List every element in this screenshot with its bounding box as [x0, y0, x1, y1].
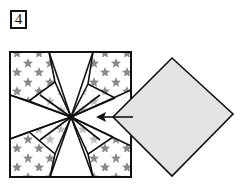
folding-diagram	[0, 0, 247, 184]
center-point	[69, 115, 74, 120]
